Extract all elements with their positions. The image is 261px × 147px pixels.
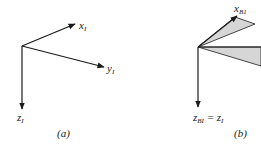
xb1-axis-label: xB1 [234,3,247,16]
y-axis-label: yI [107,63,114,76]
lower-shaded-wedge [198,47,261,66]
panel-a-axes [22,24,104,109]
upper-shaded-wedge [198,17,255,47]
caption-b: (b) [234,127,247,139]
x-axis-label: xI [79,20,86,33]
y-axis-arrow [22,46,104,67]
zbi-axis-label: zBI = zI [193,112,223,125]
panel-b-axes [198,16,261,107]
caption-a: (a) [57,127,70,139]
x-axis-arrow [22,24,75,46]
z-axis-label: zI [17,112,24,125]
